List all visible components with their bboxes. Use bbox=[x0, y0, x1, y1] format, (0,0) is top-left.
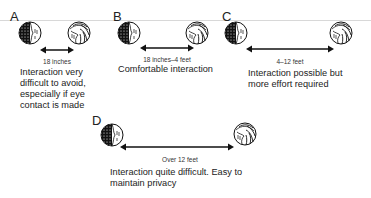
description-text: Interaction quite difficult. Easy to mai… bbox=[110, 167, 260, 189]
head-facing-right-icon bbox=[18, 21, 42, 45]
distance-label: 18 inches–4 feet bbox=[140, 56, 194, 63]
description-text: Interaction very difficult to avoid, esp… bbox=[20, 67, 100, 111]
double-arrow-icon bbox=[140, 44, 194, 52]
head-facing-left-icon bbox=[329, 21, 353, 45]
double-arrow-icon bbox=[246, 45, 334, 53]
head-facing-left-icon bbox=[185, 21, 209, 45]
head-facing-left-icon bbox=[67, 21, 91, 45]
head-facing-right-icon bbox=[117, 21, 141, 45]
head-facing-right-icon bbox=[224, 21, 248, 45]
description-text: Comfortable interaction bbox=[118, 64, 228, 75]
double-arrow-icon bbox=[120, 143, 234, 151]
distance-label: 4–12 feet bbox=[266, 58, 314, 65]
head-facing-left-icon bbox=[233, 122, 257, 146]
distance-label: 18 inches bbox=[38, 58, 76, 65]
double-arrow-icon bbox=[40, 46, 74, 54]
distance-label: Over 12 feet bbox=[150, 156, 210, 163]
description-text: Interaction possible but more effort req… bbox=[248, 68, 358, 90]
